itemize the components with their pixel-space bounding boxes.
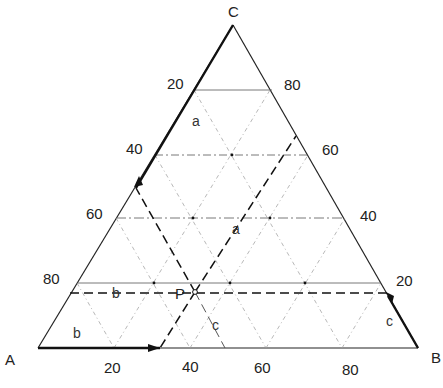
right-tick-40: 40 <box>360 208 377 223</box>
left-tick-20: 20 <box>167 76 184 91</box>
right-tick-20: 20 <box>396 273 413 288</box>
construction-lines <box>70 136 388 348</box>
left-tick-60: 60 <box>86 206 103 221</box>
triangle-outline <box>38 25 418 348</box>
region-label-a-mid: a <box>232 222 240 236</box>
left-tick-40: 40 <box>126 141 143 156</box>
right-tick-60: 60 <box>322 142 339 157</box>
grid-points <box>153 154 307 295</box>
arrowheads <box>134 176 394 352</box>
bottom-tick-80: 80 <box>342 362 359 377</box>
vertex-label-c: C <box>228 4 239 19</box>
region-label-a-top: a <box>192 114 200 128</box>
region-label-c-mid: c <box>212 318 219 332</box>
gridlines-diagonal <box>77 90 381 348</box>
bottom-tick-40: 40 <box>182 359 199 374</box>
highlighted-segments <box>38 25 418 348</box>
right-tick-80: 80 <box>284 77 301 92</box>
vertex-label-a: A <box>5 352 15 367</box>
region-label-c-right: c <box>386 314 393 328</box>
region-label-b-low: b <box>73 326 81 340</box>
vertex-label-b: B <box>431 350 441 365</box>
region-label-b-mid: b <box>112 286 120 300</box>
gridlines-horizontal <box>77 90 381 283</box>
left-tick-80: 80 <box>43 271 60 286</box>
point-p-label: P <box>175 286 185 301</box>
bottom-tick-60: 60 <box>254 360 271 375</box>
ternary-diagram <box>0 0 443 388</box>
bottom-tick-20: 20 <box>104 360 121 375</box>
